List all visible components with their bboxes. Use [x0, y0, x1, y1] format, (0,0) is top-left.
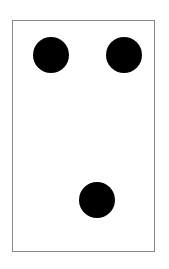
pip-top-right — [106, 37, 142, 73]
pip-bottom-center — [79, 182, 115, 218]
card — [12, 20, 155, 252]
pip-top-left — [33, 37, 69, 73]
